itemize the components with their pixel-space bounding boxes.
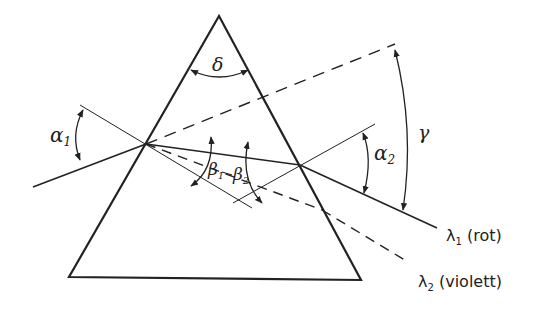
output-ray-violet: [322, 210, 408, 262]
label-alpha1: α1: [50, 123, 71, 149]
gamma-arc: [395, 50, 408, 210]
label-gamma: γ: [418, 121, 430, 143]
label-ray-red: λ1 (rot): [446, 226, 502, 247]
entry-normal: [80, 105, 252, 208]
incident-extension: [146, 44, 395, 144]
label-alpha2: α2: [374, 141, 395, 167]
alpha2-arc: [363, 133, 368, 193]
output-ray-red: [300, 165, 437, 228]
beta2-arc: [246, 142, 262, 203]
label-delta: δ: [212, 53, 223, 75]
label-beta1: β1: [207, 159, 224, 181]
refracted-ray-red: [146, 144, 300, 165]
alpha1-arc: [76, 110, 83, 160]
prism-dispersion-diagram: δ α1 α2 γ β1 β2 λ1 (rot) λ2 (violett): [0, 0, 541, 309]
exit-normal: [233, 124, 375, 203]
label-ray-violet: λ2 (violett): [418, 272, 502, 293]
incident-ray: [33, 144, 146, 187]
